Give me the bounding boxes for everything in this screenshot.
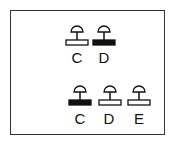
mushroom-symbol-filled-icon <box>92 21 116 47</box>
symbol-label: C <box>68 111 92 126</box>
mushroom-symbol-open-icon <box>127 81 151 107</box>
symbol-label: C <box>65 50 89 65</box>
symbol-label: E <box>127 111 151 126</box>
mushroom-symbol-filled-icon <box>68 81 92 107</box>
mushroom-symbol-open-icon <box>65 21 89 47</box>
symbol-label: D <box>97 111 121 126</box>
symbol-label: D <box>92 50 116 65</box>
mushroom-symbol-open-icon <box>98 81 122 107</box>
